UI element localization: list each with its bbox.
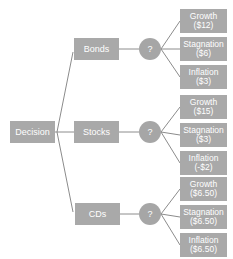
chance-node-stocks: ? xyxy=(139,121,161,143)
outcome-cds-inflation: Inflation ($6.50) xyxy=(180,233,227,257)
outcome-value: ($6.50) xyxy=(190,189,217,199)
outcome-stocks-stagnation: Stagnation ($3) xyxy=(180,123,227,147)
outcome-value: ($6.50) xyxy=(190,217,217,227)
outcome-stocks-growth: Growth ($15) xyxy=(180,95,227,119)
option-stocks: Stocks xyxy=(74,121,119,143)
outcome-value: ($3) xyxy=(196,135,211,145)
decision-node: Decision xyxy=(10,121,55,143)
outcome-cds-stagnation: Stagnation ($6.50) xyxy=(180,205,227,229)
chance-node-cds: ? xyxy=(139,203,161,225)
outcome-value: ($6) xyxy=(196,49,211,59)
outcome-value: (-$2) xyxy=(195,163,213,173)
chance-node-bonds: ? xyxy=(139,38,161,60)
outcome-value: ($6.50) xyxy=(190,245,217,255)
outcome-stocks-inflation: Inflation (-$2) xyxy=(180,151,227,175)
option-cds: CDs xyxy=(75,203,120,225)
outcome-value: ($3) xyxy=(196,77,211,87)
outcome-bonds-inflation: Inflation ($3) xyxy=(180,65,227,89)
outcome-value: ($12) xyxy=(194,21,214,31)
outcome-cds-growth: Growth ($6.50) xyxy=(180,177,227,201)
outcome-value: ($15) xyxy=(194,107,214,117)
outcome-bonds-growth: Growth ($12) xyxy=(180,9,227,33)
option-bonds: Bonds xyxy=(74,38,119,60)
outcome-bonds-stagnation: Stagnation ($6) xyxy=(180,37,227,61)
